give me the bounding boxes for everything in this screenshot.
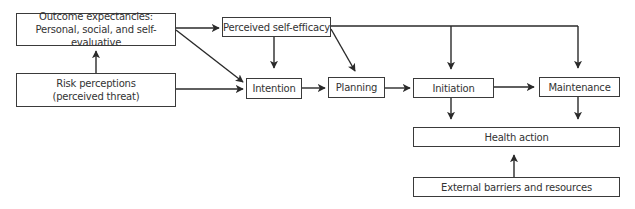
arrow-self-efficacy-to-planning: [331, 29, 355, 71]
health-action-label: Health action: [484, 131, 548, 144]
self-efficacy-label: Perceived self-efficacy: [223, 21, 330, 34]
node-risk-perceptions: Risk perceptions (perceived threat): [16, 73, 176, 107]
intention-label: Intention: [252, 82, 295, 95]
node-planning: Planning: [328, 77, 385, 98]
outcome-line1: Outcome expectancies:: [39, 10, 153, 23]
node-perceived-self-efficacy: Perceived self-efficacy: [222, 17, 331, 37]
risk-line2: (perceived threat): [53, 90, 140, 103]
planning-label: Planning: [336, 81, 377, 94]
node-health-action: Health action: [413, 127, 620, 147]
risk-line1: Risk perceptions: [56, 77, 135, 90]
external-label: External barriers and resources: [441, 181, 592, 194]
initiation-label: Initiation: [432, 82, 474, 95]
node-external-barriers: External barriers and resources: [413, 177, 620, 197]
node-maintenance: Maintenance: [539, 77, 620, 97]
node-outcome-expectancies: Outcome expectancies: Personal, social, …: [16, 13, 176, 46]
maintenance-label: Maintenance: [548, 81, 610, 94]
node-intention: Intention: [246, 78, 302, 99]
node-initiation: Initiation: [413, 78, 494, 98]
outcome-line2: Personal, social, and self-evaluative: [17, 23, 175, 49]
arrow-outcome-to-intention: [176, 30, 243, 82]
